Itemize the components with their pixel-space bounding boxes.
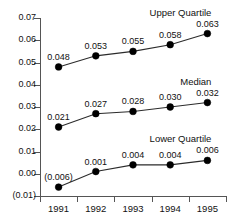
data-point-marker bbox=[130, 48, 137, 55]
data-point-marker bbox=[204, 157, 211, 164]
data-point-marker bbox=[167, 104, 174, 111]
series-name-label: Median bbox=[125, 77, 211, 87]
quartile-trend-chart: 0.070.060.050.040.030.020.010.00(0.01) 1… bbox=[0, 0, 230, 223]
point-value-label: 0.004 bbox=[150, 151, 190, 160]
data-point-marker bbox=[55, 64, 62, 71]
point-value-label: 0.055 bbox=[113, 37, 153, 46]
point-value-label: 0.006 bbox=[187, 146, 227, 155]
data-point-marker bbox=[130, 108, 137, 115]
data-point-marker bbox=[92, 110, 99, 117]
data-point-marker bbox=[167, 41, 174, 48]
point-value-label: 0.028 bbox=[113, 97, 153, 106]
data-point-marker bbox=[130, 161, 137, 168]
data-point-marker bbox=[204, 99, 211, 106]
point-value-label: 0.053 bbox=[76, 42, 116, 51]
data-point-marker bbox=[55, 184, 62, 191]
series-layer bbox=[0, 0, 230, 223]
point-value-label: 0.048 bbox=[39, 53, 79, 62]
point-value-label: 0.027 bbox=[76, 100, 116, 109]
point-value-label: 0.001 bbox=[76, 158, 116, 167]
series-name-label: Upper Quartile bbox=[125, 8, 211, 18]
point-value-label: 0.063 bbox=[187, 20, 227, 29]
series-name-label: Lower Quartile bbox=[125, 134, 211, 144]
data-point-marker bbox=[55, 124, 62, 131]
data-point-marker bbox=[92, 168, 99, 175]
point-value-label: 0.030 bbox=[150, 93, 190, 102]
point-value-label: 0.032 bbox=[187, 89, 227, 98]
data-point-marker bbox=[92, 52, 99, 59]
data-point-marker bbox=[204, 30, 211, 37]
point-value-label: 0.004 bbox=[113, 151, 153, 160]
point-value-label: 0.021 bbox=[39, 113, 79, 122]
point-value-label: (0.006) bbox=[39, 173, 79, 182]
point-value-label: 0.058 bbox=[150, 31, 190, 40]
data-point-marker bbox=[167, 161, 174, 168]
